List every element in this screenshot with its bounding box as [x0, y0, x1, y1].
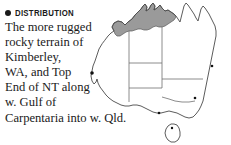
west-coast-dot — [90, 71, 94, 75]
distribution-heading-label: DISTRIBUTION — [15, 8, 74, 18]
tasmania-outline — [165, 124, 180, 142]
filled-circle-bullet-icon — [5, 10, 11, 16]
state-border-sa — [129, 63, 162, 88]
south-coast-dot — [158, 112, 161, 115]
east-coast-dot — [211, 65, 214, 68]
australia-map — [83, 0, 231, 145]
state-border-nsw-vic — [162, 97, 195, 102]
shaded-range-region — [112, 3, 176, 36]
southeast-dot — [194, 97, 197, 100]
distribution-panel: DISTRIBUTION The more rugged rocky terra… — [0, 0, 231, 145]
tasmania-dot — [171, 127, 173, 129]
australia-map-svg — [83, 0, 231, 145]
distribution-heading: DISTRIBUTION — [5, 8, 79, 18]
